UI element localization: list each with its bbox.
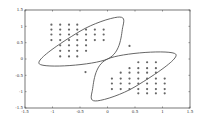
boundary-lower-right (91, 52, 176, 101)
data-point (94, 29, 96, 31)
data-point (155, 67, 157, 69)
data-point (137, 67, 139, 69)
data-point (59, 44, 61, 46)
data-point (155, 78, 157, 80)
data-point (146, 78, 148, 80)
data-point (146, 82, 148, 84)
data-point (59, 29, 61, 31)
y-axis-tick-labels: 1.510.50-0.5-1-1.5 (15, 7, 23, 110)
x-tick-label: 1 (161, 109, 164, 114)
y-tick-label: -1 (19, 89, 23, 94)
data-point (155, 72, 157, 74)
data-point (103, 33, 105, 35)
x-tick-label: -1 (51, 109, 55, 114)
data-point (50, 33, 52, 35)
data-point (137, 88, 139, 90)
data-point (76, 39, 78, 41)
data-point (68, 29, 70, 31)
data-point (85, 33, 87, 35)
data-point (111, 82, 113, 84)
data-point (155, 82, 157, 84)
data-point (155, 92, 157, 94)
data-point (137, 92, 139, 94)
data-point (59, 55, 61, 57)
data-point (68, 24, 70, 26)
data-point (50, 29, 52, 31)
data-point (68, 50, 70, 52)
data-point (120, 82, 122, 84)
data-point (111, 88, 113, 90)
data-point (128, 82, 130, 84)
data-point (85, 29, 87, 31)
y-tick-label: 1 (20, 24, 23, 29)
y-tick-label: 0 (20, 56, 23, 61)
data-point (59, 24, 61, 26)
data-point (76, 33, 78, 35)
data-point (128, 78, 130, 80)
data-point (76, 29, 78, 31)
data-point (59, 50, 61, 52)
x-axis-tick-labels: -1.5-1-0.500.511.5 (21, 109, 193, 114)
data-point (155, 88, 157, 90)
data-point (137, 82, 139, 84)
data-point (50, 39, 52, 41)
y-tick-label: 1.5 (17, 7, 24, 12)
x-tick-label: 0 (106, 109, 109, 114)
data-point (128, 67, 130, 69)
y-tick-label: 0.5 (17, 40, 24, 45)
scatter-chart: -1.5-1-0.500.511.5 1.510.50-0.5-1-1.5 (0, 0, 199, 123)
x-tick-label: 0.5 (132, 109, 139, 114)
data-point (76, 24, 78, 26)
data-point (137, 78, 139, 80)
data-point (68, 55, 70, 57)
data-point (120, 78, 122, 80)
data-point (76, 55, 78, 57)
data-point (59, 33, 61, 35)
data-point (84, 71, 86, 73)
data-point (164, 82, 166, 84)
data-point (76, 50, 78, 52)
data-point (146, 61, 148, 63)
x-tick-label: 1.5 (187, 109, 194, 114)
data-point (137, 72, 139, 74)
data-point (94, 33, 96, 35)
data-point (137, 61, 139, 63)
data-point (146, 92, 148, 94)
data-point (164, 92, 166, 94)
data-point (146, 88, 148, 90)
data-point (164, 78, 166, 80)
data-point (50, 24, 52, 26)
data-point (128, 72, 130, 74)
data-point (85, 50, 87, 52)
data-point (164, 88, 166, 90)
data-point (85, 39, 87, 41)
x-tick-label: -0.5 (76, 109, 84, 114)
data-point (68, 33, 70, 35)
data-point (155, 61, 157, 63)
y-tick-label: -0.5 (15, 73, 23, 78)
data-point (111, 78, 113, 80)
data-point (146, 67, 148, 69)
data-point (94, 39, 96, 41)
data-point (146, 72, 148, 74)
data-point (85, 44, 87, 46)
data-point (128, 88, 130, 90)
data-point (120, 88, 122, 90)
data-point (103, 29, 105, 31)
data-point (120, 72, 122, 74)
y-tick-label: -1.5 (15, 105, 23, 110)
data-point (103, 39, 105, 41)
data-point (128, 45, 130, 47)
data-point (76, 44, 78, 46)
data-point (68, 44, 70, 46)
data-point (68, 39, 70, 41)
data-point (59, 39, 61, 41)
